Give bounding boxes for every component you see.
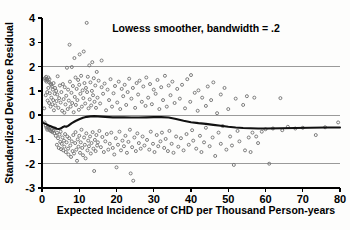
- y-axis-ticks: -3-2-101234: [25, 12, 42, 194]
- data-point: [135, 82, 138, 85]
- data-point: [99, 146, 102, 149]
- data-point: [103, 82, 106, 85]
- data-point: [109, 78, 112, 81]
- data-point: [201, 96, 204, 99]
- data-point: [219, 142, 222, 145]
- data-point: [236, 129, 239, 132]
- data-point: [154, 92, 157, 95]
- data-point: [116, 101, 119, 104]
- data-point: [191, 129, 194, 132]
- data-point: [167, 84, 170, 87]
- data-point: [145, 76, 148, 79]
- data-point: [84, 102, 87, 105]
- x-tick-label: 0: [39, 193, 45, 205]
- data-point: [93, 100, 96, 103]
- data-point: [69, 144, 72, 147]
- data-point: [79, 141, 82, 144]
- data-point: [102, 151, 105, 154]
- chart-annotation: Lowess smoother, bandwidth = .2: [112, 22, 280, 34]
- data-point: [86, 149, 89, 152]
- data-point: [279, 97, 282, 100]
- data-point: [44, 94, 47, 97]
- data-point: [163, 74, 166, 77]
- data-point: [62, 98, 65, 101]
- data-point: [55, 100, 58, 103]
- data-point: [73, 152, 76, 155]
- data-point: [70, 140, 73, 143]
- data-point: [125, 103, 128, 106]
- x-axis-ticks: 01020304050607080: [39, 188, 346, 205]
- data-point: [124, 134, 127, 137]
- data-point: [96, 141, 99, 144]
- data-point: [129, 172, 132, 175]
- data-point: [52, 99, 55, 102]
- data-point: [128, 128, 131, 131]
- data-point: [123, 83, 126, 86]
- data-point: [74, 103, 77, 106]
- data-point: [255, 135, 258, 138]
- data-point: [184, 107, 187, 110]
- data-point: [260, 130, 263, 133]
- data-point: [164, 137, 167, 140]
- data-point: [113, 153, 116, 156]
- data-point: [73, 57, 76, 60]
- data-point: [70, 155, 73, 158]
- data-point: [100, 59, 103, 62]
- data-point: [126, 91, 129, 94]
- data-point: [139, 147, 142, 150]
- data-point: [214, 154, 217, 157]
- data-point: [234, 97, 237, 100]
- data-point: [110, 131, 113, 134]
- data-point: [337, 121, 340, 124]
- data-point: [211, 136, 214, 139]
- data-point: [182, 149, 185, 152]
- data-point: [160, 131, 163, 134]
- data-point: [76, 138, 79, 141]
- data-point: [43, 107, 46, 110]
- data-point: [70, 91, 73, 94]
- data-point: [94, 150, 97, 153]
- y-tick-label: -3: [25, 182, 35, 194]
- data-point: [72, 134, 75, 137]
- data-point: [82, 97, 85, 100]
- data-point: [163, 146, 166, 149]
- data-point: [65, 141, 68, 144]
- data-point: [200, 151, 203, 154]
- data-point: [106, 88, 109, 91]
- data-point: [179, 137, 182, 140]
- data-point: [80, 128, 83, 131]
- data-point: [52, 82, 55, 85]
- data-point: [61, 136, 64, 139]
- data-point: [55, 89, 58, 92]
- y-tick-label: 0: [29, 109, 35, 121]
- data-point: [64, 103, 67, 106]
- data-point: [68, 43, 71, 46]
- data-point: [83, 82, 86, 85]
- data-point: [247, 136, 250, 139]
- data-point: [140, 100, 143, 103]
- data-point: [48, 92, 51, 95]
- data-point: [97, 79, 100, 82]
- data-point: [144, 104, 147, 107]
- data-point: [99, 102, 102, 105]
- data-point: [122, 95, 125, 98]
- y-tick-label: -1: [25, 133, 35, 145]
- data-point: [88, 98, 91, 101]
- data-point: [168, 129, 171, 132]
- data-point: [104, 140, 107, 143]
- data-point: [153, 151, 156, 154]
- data-point: [119, 149, 122, 152]
- data-point: [189, 100, 192, 103]
- data-point: [158, 108, 161, 111]
- data-point: [96, 96, 99, 99]
- data-point: [48, 102, 51, 105]
- data-point: [118, 130, 121, 133]
- data-point: [98, 129, 101, 132]
- data-point: [131, 146, 134, 149]
- data-point: [121, 139, 124, 142]
- data-point: [93, 138, 96, 141]
- data-point: [87, 107, 90, 110]
- y-tick-label: 4: [29, 12, 36, 24]
- data-point: [90, 89, 93, 92]
- data-point: [137, 142, 140, 145]
